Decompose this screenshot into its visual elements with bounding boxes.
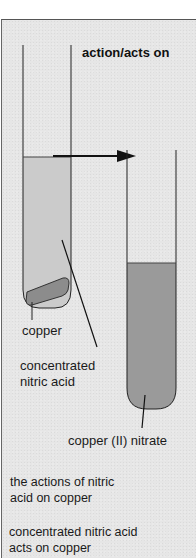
caption-1-line2: acid on copper xyxy=(10,490,114,506)
caption-2-line1: concentrated nitric acid xyxy=(9,524,138,540)
nitrate-liquid xyxy=(127,263,176,409)
diagram-title: action/acts on xyxy=(82,45,169,60)
caption-1: the actions of nitric acid on copper xyxy=(10,474,114,506)
acid-label: concentrated nitric acid xyxy=(20,358,95,390)
caption-2-line2: acts on copper xyxy=(9,540,138,556)
caption-1-line1: the actions of nitric xyxy=(10,474,114,490)
nitrate-label: copper (II) nitrate xyxy=(68,433,167,448)
copper-label: copper xyxy=(22,323,62,338)
acid-label-line2: nitric acid xyxy=(20,374,95,390)
caption-2: concentrated nitric acid acts on copper xyxy=(9,524,138,556)
acid-label-line1: concentrated xyxy=(20,358,95,374)
